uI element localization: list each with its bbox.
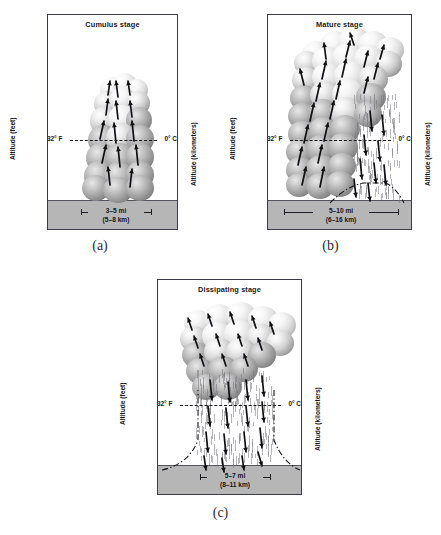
- freezing-label-celsius: 0° C: [398, 136, 411, 142]
- air-flow-arrow: [364, 51, 369, 67]
- air-flow-arrow: [346, 41, 351, 57]
- air-flow-arrow: [203, 456, 208, 470]
- air-flow-arrow: [107, 81, 112, 95]
- freezing-level-line: [180, 405, 281, 406]
- air-flow-arrow: [342, 59, 347, 77]
- axis-left-label-a: Altitude (feet): [9, 118, 16, 161]
- freezing-label-celsius: 0° C: [288, 401, 301, 407]
- air-flow-arrow: [223, 434, 228, 454]
- plot-area-b: Mature stage 40,00030,00020,00010,0005,0…: [267, 14, 412, 230]
- air-flow-arrow: [380, 45, 385, 59]
- air-flow-arrow: [261, 376, 266, 396]
- downdraft-arrows-c: [158, 280, 302, 495]
- air-flow-arrow: [373, 163, 378, 183]
- panel-title-b: Mature stage: [268, 20, 411, 29]
- freezing-level-line: [290, 140, 391, 141]
- air-flow-arrow: [302, 167, 307, 185]
- air-flow-arrow: [116, 147, 121, 167]
- air-flow-arrow: [363, 135, 368, 155]
- air-flow-arrow: [353, 179, 358, 197]
- air-flow-arrow: [377, 141, 382, 161]
- air-flow-arrow: [322, 61, 327, 79]
- air-flow-arrow: [320, 167, 326, 187]
- air-flow-arrow: [199, 354, 204, 366]
- air-flow-arrow: [106, 167, 111, 185]
- plot-area-a: Cumulus stage 40,00030,00020,00010,0005,…: [47, 14, 178, 230]
- air-flow-arrow: [207, 314, 212, 326]
- air-flow-arrow: [269, 322, 274, 334]
- air-flow-arrow: [243, 432, 248, 452]
- air-flow-arrow: [100, 121, 105, 139]
- air-flow-arrow: [102, 145, 107, 163]
- air-flow-arrow: [187, 318, 192, 330]
- air-flow-arrow: [227, 382, 232, 402]
- panel-dissipating-stage: Altitude (feet) Altitude (kilometers) Di…: [110, 273, 331, 523]
- air-flow-arrow: [336, 81, 341, 99]
- air-flow-arrow: [364, 77, 369, 93]
- panel-title-a: Cumulus stage: [48, 20, 177, 29]
- air-flow-arrow: [126, 81, 131, 95]
- air-flow-arrow: [259, 428, 264, 448]
- panel-title-c: Dissipating stage: [158, 285, 301, 294]
- axis-left-label-c: Altitude (feet): [119, 383, 126, 426]
- panel-caption-a: (a): [0, 238, 200, 254]
- freezing-label-fahrenheit: 32° F: [157, 401, 172, 407]
- air-flow-arrow: [237, 334, 242, 346]
- air-flow-arrow: [134, 145, 139, 165]
- air-flow-arrow: [298, 147, 303, 165]
- air-flow-arrow: [229, 312, 234, 324]
- air-flow-arrow: [128, 101, 133, 117]
- air-flow-arrow: [318, 145, 323, 163]
- air-flow-arrow: [257, 338, 262, 350]
- plot-area-c: Dissipating stage 40,00030,00020,00010,0…: [157, 279, 302, 495]
- axis-right-label-c: Altitude (kilometers): [314, 387, 321, 451]
- air-flow-arrow: [129, 169, 134, 187]
- axis-right-label-a: Altitude (kilometers): [190, 122, 197, 186]
- air-flow-arrow: [221, 458, 226, 472]
- freezing-level-line: [70, 140, 157, 141]
- air-flow-arrow: [369, 111, 374, 131]
- freezing-label-fahrenheit: 32° F: [267, 136, 282, 142]
- air-flow-arrow: [316, 83, 321, 101]
- air-flow-arrows-b: [268, 15, 412, 230]
- air-flow-arrow: [241, 456, 246, 470]
- air-flow-arrow: [258, 452, 263, 466]
- air-flow-arrow: [205, 432, 210, 452]
- air-flow-arrow: [245, 406, 250, 426]
- air-flow-arrow: [245, 380, 250, 400]
- air-flow-arrow: [367, 183, 372, 201]
- air-flow-arrow: [359, 159, 364, 179]
- air-flow-arrow: [324, 123, 329, 141]
- air-flow-arrow: [114, 101, 119, 119]
- updraft-arrows-a: [48, 15, 178, 230]
- freezing-label-celsius: 0° C: [164, 136, 177, 142]
- air-flow-arrow: [322, 43, 327, 59]
- air-flow-arrow: [243, 354, 248, 366]
- air-flow-arrow: [381, 115, 386, 135]
- air-flow-arrow: [251, 316, 256, 328]
- axis-right-label-b: Altitude (kilometers): [424, 122, 431, 186]
- air-flow-arrow: [310, 103, 315, 121]
- panel-caption-c: (c): [110, 505, 331, 521]
- air-flow-arrow: [225, 408, 230, 428]
- air-flow-arrow: [130, 121, 135, 141]
- panel-cumulus-stage: Altitude (feet) Altitude (kilometers) Cu…: [0, 8, 200, 258]
- panel-caption-b: (b): [220, 238, 441, 254]
- air-flow-arrow: [105, 99, 110, 115]
- air-flow-arrow: [299, 69, 304, 85]
- air-flow-arrow: [330, 101, 335, 119]
- air-flow-arrow: [374, 63, 379, 79]
- air-flow-arrow: [221, 354, 226, 366]
- thunderstorm-stages-figure: Altitude (feet) Altitude (kilometers) Cu…: [0, 0, 441, 535]
- freezing-label-fahrenheit: 32° F: [47, 136, 62, 142]
- air-flow-arrow: [209, 380, 214, 400]
- axis-left-label-b: Altitude (feet): [229, 118, 236, 161]
- air-flow-arrow: [383, 165, 388, 185]
- air-flow-arrow: [114, 81, 119, 97]
- air-flow-arrow: [207, 406, 212, 426]
- air-flow-arrow: [193, 336, 198, 348]
- air-flow-arrow: [215, 334, 220, 346]
- panel-mature-stage: Altitude (feet) Altitude (kilometers) Ma…: [220, 8, 441, 258]
